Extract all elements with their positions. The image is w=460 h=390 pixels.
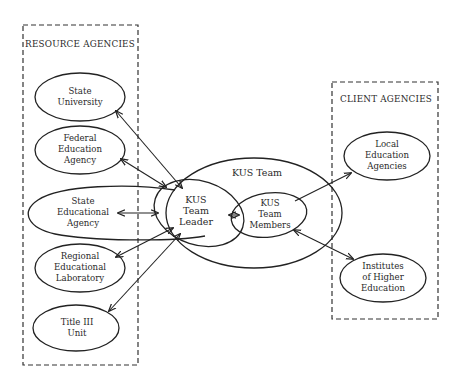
members-label-1: KUS <box>260 198 279 208</box>
ihe-label-3: Education <box>361 283 406 293</box>
state-university-node: State University <box>35 73 125 121</box>
arrow-leader-federal <box>121 159 166 187</box>
federal-label-2: Education <box>58 144 103 154</box>
client-agencies-title: CLIENT AGENCIES <box>340 94 432 104</box>
ihe-label-2: of Higher <box>362 272 404 282</box>
lea-label-2: Education <box>365 150 410 160</box>
federal-education-agency-node: Federal Education Agency <box>35 126 125 174</box>
sea-label-1: State <box>71 196 94 206</box>
resource-agencies-title: RESOURCE AGENCIES <box>25 39 135 49</box>
title-iii-label-2: Unit <box>68 328 88 338</box>
state-educational-agency-node: State Educational Agency <box>28 186 205 240</box>
rel-label-2: Educational <box>54 262 106 272</box>
arrow-members-ihe <box>294 230 353 259</box>
leader-label-2: Team <box>183 205 209 216</box>
local-education-agencies-node: Local Education Agencies <box>344 132 430 180</box>
state-university-label-2: University <box>57 97 102 107</box>
arrow-leader-regional-lab <box>116 228 173 257</box>
kus-team-members-node: KUS Team Members <box>228 188 309 242</box>
state-educational-agency-ellipse <box>28 186 205 240</box>
leader-label-3: Leader <box>179 216 213 227</box>
sea-label-3: Agency <box>66 218 99 228</box>
resource-agencies-group: RESOURCE AGENCIES <box>23 25 138 365</box>
connections <box>109 111 353 311</box>
ihe-label-1: Institutes <box>362 261 403 271</box>
arrow-leader-title-iii <box>109 234 180 311</box>
kus-team-diagram: RESOURCE AGENCIES CLIENT AGENCIES KUS Te… <box>0 0 460 390</box>
rel-label-3: Laboratory <box>56 273 104 283</box>
title-iii-label-1: Title III <box>61 317 94 327</box>
members-label-2: Team <box>258 209 281 219</box>
resource-agencies-border <box>23 25 138 365</box>
regional-educational-laboratory-node: Regional Educational Laboratory <box>35 244 125 292</box>
sea-label-2: Educational <box>57 207 109 217</box>
arrow-members-lea <box>295 173 351 201</box>
state-university-label-1: State <box>68 86 91 96</box>
leader-label-1: KUS <box>185 194 206 205</box>
members-label-3: Members <box>249 220 290 230</box>
title-iii-unit-node: Title III Unit <box>33 305 119 351</box>
lea-label-1: Local <box>375 139 399 149</box>
kus-team-label: KUS Team <box>232 167 282 178</box>
lea-label-3: Agencies <box>366 161 406 171</box>
institutes-higher-education-node: Institutes of Higher Education <box>340 254 426 302</box>
federal-label-3: Agency <box>63 155 96 165</box>
kus-team-leader-node: KUS Team Leader <box>145 168 252 257</box>
rel-label-1: Regional <box>61 251 100 261</box>
federal-label-1: Federal <box>63 133 96 143</box>
